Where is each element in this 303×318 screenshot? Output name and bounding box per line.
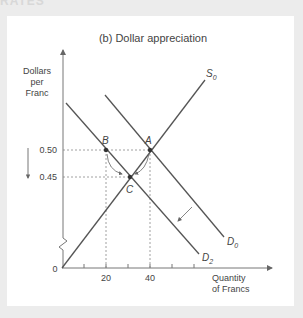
point-b-marker (104, 148, 108, 152)
point-b-label: B (102, 135, 109, 146)
diagram-title: (b) Dollar appreciation (99, 32, 207, 44)
demand-shift-arrow (178, 207, 192, 221)
demand-d2-label: D2 (202, 252, 213, 265)
demand-curve-d2 (66, 103, 199, 254)
point-c-label: C (126, 184, 134, 195)
x-axis-label-line-2: of Francs (212, 284, 250, 294)
y-axis-label-line-2: per (30, 77, 43, 87)
y-tick-045: 0.45 (39, 172, 57, 182)
demand-d0-label: D0 (227, 236, 238, 249)
supply-demand-diagram: (b) Dollar appreciation Dollars per Fran… (0, 0, 303, 318)
y-tick-050: 0.50 (39, 145, 57, 155)
x-axis-label-line-1: Quantity (212, 273, 246, 283)
supply-curve-s0 (62, 80, 205, 268)
point-a-label: A (144, 135, 152, 146)
x-tick-20: 20 (101, 273, 111, 283)
supply-curve-label: S0 (206, 68, 217, 81)
y-axis-label-line-3: Franc (25, 88, 49, 98)
y-axis-label-line-1: Dollars (23, 66, 52, 76)
origin-label: 0 (52, 264, 57, 274)
point-c-marker (128, 175, 132, 179)
x-tick-40: 40 (145, 273, 155, 283)
y-axis (59, 50, 67, 268)
point-a-marker (148, 148, 152, 152)
x-axis (62, 264, 272, 268)
